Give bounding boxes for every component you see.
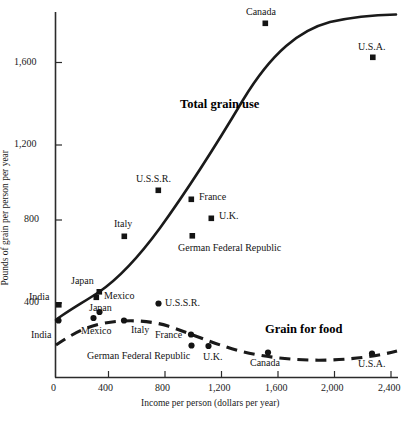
y-tick-label-1600: 1,600 (14, 57, 37, 67)
label-food-italy: Italy (131, 325, 149, 335)
label-total-canada: Canada (246, 7, 276, 17)
y-tick-label-800: 800 (24, 214, 39, 224)
marker-total-france (189, 197, 195, 203)
label-food-mexico: Mexico (81, 326, 112, 336)
label-total-japan: Japan (71, 276, 94, 286)
y-axis-title: Pounds of grain per person per year (0, 150, 10, 286)
x-tick-label-2400: 2,400 (378, 383, 401, 393)
label-food-france: France (155, 330, 182, 340)
x-tick-label-2000: 2,000 (321, 383, 344, 393)
label-total-italy: Italy (114, 219, 132, 229)
marker-total-mexico (94, 295, 100, 301)
x-tick-label-800: 800 (155, 383, 170, 393)
label-total-france: France (199, 192, 226, 202)
marker-total-canada (263, 21, 269, 27)
marker-food-italy (121, 317, 127, 323)
label-food-uk: U.K. (203, 352, 222, 362)
marker-total-japan (97, 289, 103, 295)
label-total-usa: U.S.A. (358, 42, 386, 52)
label-food-germany: German Federal Republic (87, 351, 190, 361)
x-tick-label-400: 400 (98, 383, 113, 393)
x-axis-title: Income per person (dollars per year) (141, 399, 279, 409)
marker-food-france (188, 331, 194, 337)
marker-food-uk (205, 343, 211, 349)
label-food-usa: U.S.A. (358, 359, 386, 369)
marker-food-canada (265, 349, 271, 355)
x-tick-label-1200: 1,200 (208, 383, 231, 393)
y-axis-ticks (56, 63, 63, 304)
label-total-germany: German Federal Republic (178, 243, 281, 253)
label-food-canada: Canada (250, 358, 280, 368)
marker-food-ussr (155, 300, 161, 306)
label-food-japan: Japan (89, 303, 112, 313)
label-total-mexico: Mexico (104, 291, 135, 301)
total-grain-use-label: Total grain use (180, 98, 259, 111)
chart-figure: Pounds of grain per person per year 1,60… (0, 0, 409, 422)
marker-total-italy (122, 234, 128, 240)
marker-total-ussr (156, 188, 162, 194)
x-tick-label-1600: 1,600 (265, 383, 288, 393)
marker-total-usa (370, 55, 376, 61)
label-food-india: India (31, 330, 52, 340)
marker-food-india (55, 317, 61, 323)
marker-food-mexico (90, 315, 96, 321)
marker-total-india (56, 302, 62, 308)
total-grain-use-curve (56, 15, 396, 321)
y-tick-label-1200: 1,200 (14, 139, 37, 149)
marker-food-usa (369, 350, 375, 356)
marker-total-germany (190, 233, 196, 239)
x-tick-label-0: 0 (51, 383, 56, 393)
label-total-uk: U.K. (219, 211, 238, 221)
label-total-india: India (29, 292, 50, 302)
marker-food-germany (188, 342, 194, 348)
x-axis-ticks (109, 371, 392, 378)
label-total-ussr: U.S.S.R. (136, 174, 171, 184)
total-grain-use-markers (56, 21, 376, 308)
marker-total-uk (209, 216, 215, 222)
grain-for-food-label: Grain for food (265, 323, 343, 336)
label-food-ussr: U.S.S.R. (165, 298, 200, 308)
